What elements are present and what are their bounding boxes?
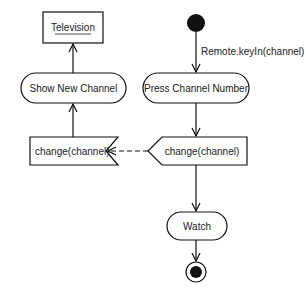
accept-change-channel-event[interactable]: change(channel)	[30, 137, 118, 165]
show-new-channel-action[interactable]: Show New Channel	[21, 73, 126, 103]
initial-node	[187, 14, 205, 32]
final-node	[186, 262, 206, 282]
send-change-channel-label: change(channel)	[165, 146, 240, 157]
show-new-channel-label: Show New Channel	[30, 83, 118, 94]
press-channel-number-label: Press Channel Number	[144, 83, 249, 94]
send-change-channel-signal[interactable]: change(channel)	[148, 137, 247, 165]
watch-label: Watch	[183, 221, 211, 232]
watch-action[interactable]: Watch	[167, 212, 227, 240]
television-object-node[interactable]: Television	[43, 12, 103, 43]
edge-guard-label: Remote.keyIn(channel)	[201, 46, 304, 57]
activity-diagram: Television Show New Channel change(chann…	[0, 0, 306, 302]
accept-change-channel-label: change(channel)	[35, 146, 110, 157]
press-channel-number-action[interactable]: Press Channel Number	[143, 73, 249, 103]
television-label: Television	[51, 22, 95, 33]
